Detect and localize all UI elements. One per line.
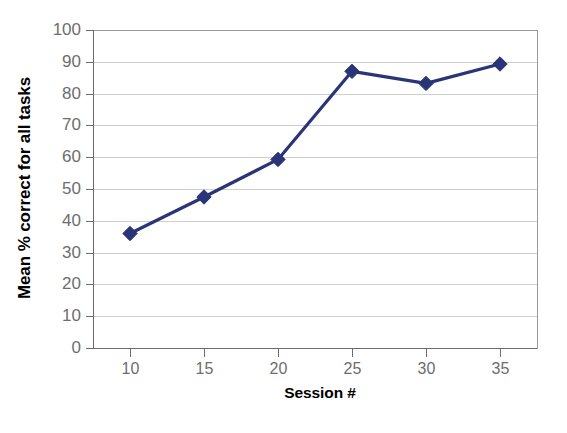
y-tick-label-80: 80 bbox=[62, 84, 81, 103]
x-tick-label-25: 25 bbox=[344, 360, 362, 377]
data-point-marker-10 bbox=[123, 226, 137, 240]
plot-area: 0102030405060708090100 101520253035 bbox=[0, 0, 567, 433]
y-tick-label-60: 60 bbox=[62, 147, 81, 166]
y-tick-label-30: 30 bbox=[62, 243, 81, 262]
data-point-marker-30 bbox=[419, 76, 433, 90]
x-axis-tick-labels: 101520253035 bbox=[122, 360, 510, 377]
series-line-0 bbox=[130, 64, 500, 233]
y-tick-label-0: 0 bbox=[72, 338, 81, 357]
data-point-markers bbox=[123, 57, 507, 241]
y-tick-label-10: 10 bbox=[62, 306, 81, 325]
data-series-line bbox=[130, 64, 500, 233]
y-tick-label-100: 100 bbox=[53, 20, 81, 39]
y-tick-label-70: 70 bbox=[62, 115, 81, 134]
chart-container: Mean % correct for all tasks 01020304050… bbox=[0, 0, 567, 433]
x-tick-label-35: 35 bbox=[492, 360, 510, 377]
y-axis-tick-labels: 0102030405060708090100 bbox=[53, 20, 81, 357]
y-axis-ticks bbox=[86, 31, 93, 349]
y-tick-label-50: 50 bbox=[62, 179, 81, 198]
y-tick-label-90: 90 bbox=[62, 52, 81, 71]
x-tick-label-20: 20 bbox=[270, 360, 288, 377]
y-tick-label-20: 20 bbox=[62, 274, 81, 293]
data-point-marker-15 bbox=[197, 190, 211, 204]
x-tick-label-10: 10 bbox=[122, 360, 140, 377]
x-tick-label-30: 30 bbox=[418, 360, 436, 377]
x-tick-label-15: 15 bbox=[196, 360, 214, 377]
y-tick-label-40: 40 bbox=[62, 211, 81, 230]
x-axis-ticks bbox=[131, 348, 501, 357]
data-point-marker-35 bbox=[493, 57, 507, 71]
x-axis-title: Session # bbox=[100, 384, 540, 402]
